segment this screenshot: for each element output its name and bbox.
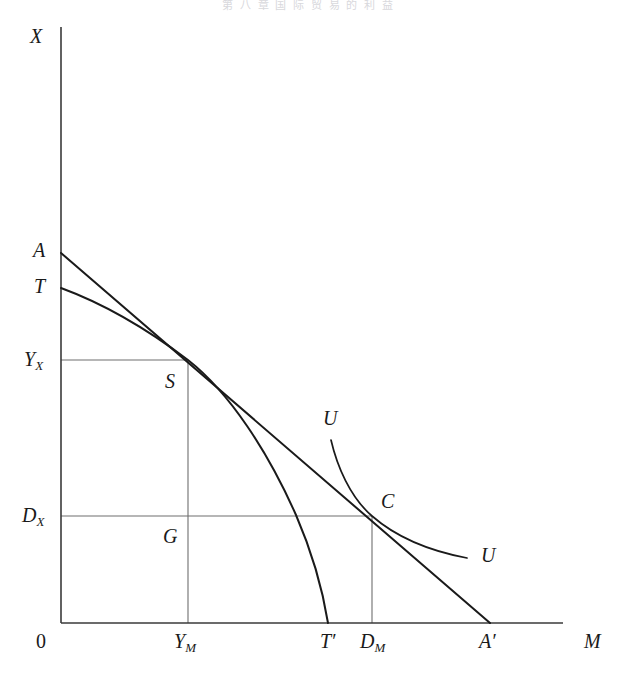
label-yx: YX <box>24 349 43 369</box>
y-axis-label: X <box>30 26 42 46</box>
label-dx: DX <box>22 505 44 525</box>
label-dx-subscript: X <box>36 514 44 529</box>
label-g: G <box>163 526 177 546</box>
production-possibility-frontier-tt-prime <box>61 288 328 623</box>
label-a-prime: A′ <box>479 631 496 651</box>
label-yx-subscript: X <box>35 358 43 373</box>
trade-gains-diagram <box>0 0 617 680</box>
figure-root: 第 八 章 国 际 贸 易 的 利 益 X M 0 A T YX DX S G … <box>0 0 617 680</box>
label-yx-base: Y <box>24 348 35 370</box>
indifference-curve-uu <box>331 440 467 558</box>
label-t-prime: T′ <box>320 631 336 651</box>
label-ym: YM <box>174 631 196 651</box>
label-dm: DM <box>360 631 385 651</box>
label-u-upper: U <box>323 408 337 428</box>
label-ym-subscript: M <box>185 640 196 655</box>
x-axis-label: M <box>584 631 601 651</box>
label-dm-subscript: M <box>374 640 385 655</box>
label-c: C <box>381 491 394 511</box>
label-a: A <box>33 240 45 260</box>
label-dm-base: D <box>360 630 374 652</box>
label-dx-base: D <box>22 504 36 526</box>
label-s: S <box>165 371 175 391</box>
label-u-lower: U <box>481 545 495 565</box>
price-line-aa-prime <box>61 253 490 623</box>
label-t: T <box>34 276 45 296</box>
label-ym-base: Y <box>174 630 185 652</box>
origin-label: 0 <box>36 631 46 651</box>
